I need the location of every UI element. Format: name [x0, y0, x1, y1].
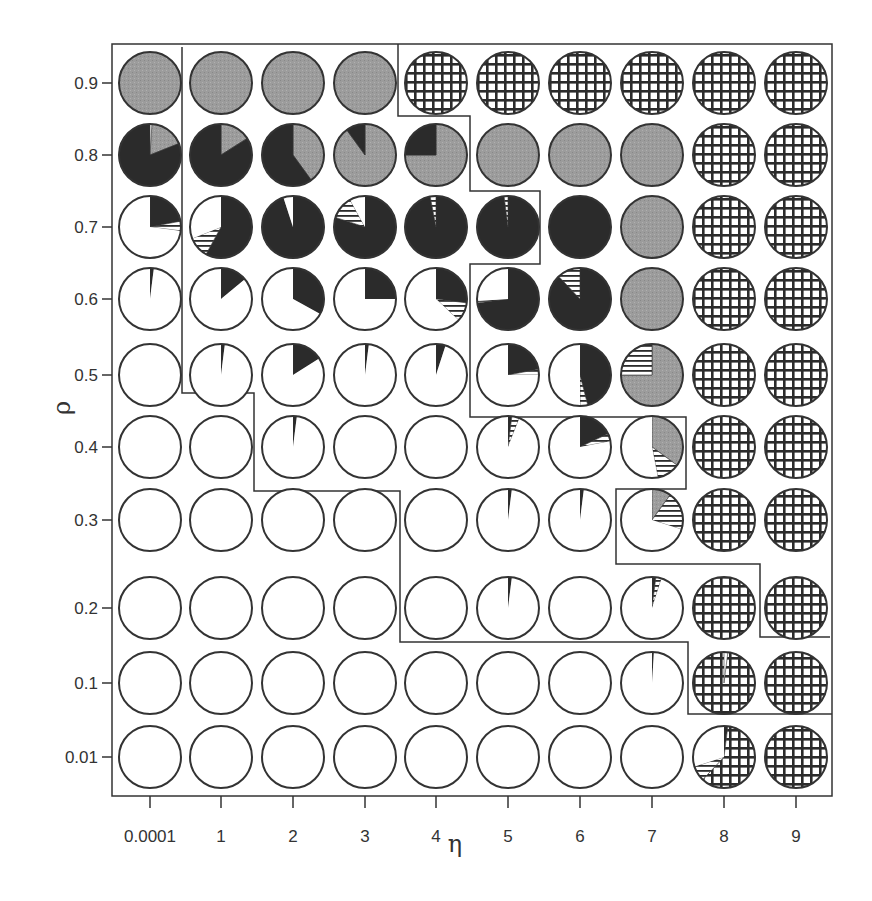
x-tick-label: 5: [503, 827, 512, 846]
pie-marker: [119, 416, 181, 478]
pie-marker: [405, 124, 467, 186]
pie-marker: [621, 489, 683, 551]
x-tick-label: 4: [431, 827, 440, 846]
y-tick-label: 0.1: [74, 674, 98, 693]
pie-marker: [334, 268, 396, 330]
pie-marker: [549, 124, 611, 186]
y-tick-label: 0.4: [74, 438, 98, 457]
pie-marker: [190, 577, 252, 639]
pie-marker: [334, 489, 396, 551]
pie-marker: [549, 344, 611, 406]
pie-marker: [765, 268, 827, 330]
pie-marker: [334, 196, 396, 258]
pie-marker: [693, 196, 755, 258]
pie-markers: [119, 52, 827, 788]
pie-marker: [262, 416, 324, 478]
pie-marker: [621, 124, 683, 186]
y-tick-label: 0.2: [74, 599, 98, 618]
pie-marker: [693, 726, 755, 788]
pie-marker: [477, 726, 539, 788]
pie-marker: [693, 577, 755, 639]
pie-marker: [549, 268, 611, 330]
pie-marker: [765, 196, 827, 258]
pie-marker: [190, 726, 252, 788]
pie-marker: [262, 268, 324, 330]
pie-marker: [190, 52, 252, 114]
pie-marker: [765, 416, 827, 478]
pie-marker: [765, 489, 827, 551]
x-tick-label: 0.0001: [124, 827, 176, 846]
pie-marker: [190, 268, 252, 330]
pie-marker: [765, 652, 827, 714]
pie-marker: [190, 489, 252, 551]
pie-marker: [334, 344, 396, 406]
pie-marker: [334, 577, 396, 639]
pie-marker: [765, 344, 827, 406]
pie-marker: [262, 726, 324, 788]
pie-marker: [334, 726, 396, 788]
x-tick-label: 3: [360, 827, 369, 846]
pie-marker: [190, 124, 252, 186]
pie-marker: [621, 577, 683, 639]
y-tick-label: 0.3: [74, 511, 98, 530]
pie-marker: [334, 52, 396, 114]
pie-marker: [262, 124, 324, 186]
pie-marker: [621, 726, 683, 788]
pie-marker: [405, 726, 467, 788]
y-tick-label: 0.6: [74, 290, 98, 309]
pie-marker: [549, 52, 611, 114]
x-axis: 0.0001123456789: [124, 796, 801, 846]
pie-marker: [262, 344, 324, 406]
pie-marker: [334, 652, 396, 714]
pie-marker: [262, 489, 324, 551]
pie-marker: [405, 652, 467, 714]
pie-marker: [119, 52, 181, 114]
pie-marker: [477, 52, 539, 114]
pie-marker: [549, 652, 611, 714]
pie-marker: [549, 196, 611, 258]
y-tick-label: 0.7: [74, 218, 98, 237]
pie-marker: [621, 344, 683, 406]
pie-grid-chart: 0.90.80.70.60.50.40.30.20.10.01 0.000112…: [0, 0, 872, 901]
pie-marker: [477, 268, 539, 330]
pie-marker: [549, 577, 611, 639]
pie-marker: [549, 416, 611, 478]
pie-marker: [262, 52, 324, 114]
pie-marker: [621, 652, 683, 714]
pie-marker: [405, 52, 467, 114]
pie-marker: [119, 196, 181, 258]
pie-marker: [693, 416, 755, 478]
pie-marker: [119, 577, 181, 639]
pie-marker: [334, 124, 396, 186]
pie-marker: [477, 416, 539, 478]
pie-marker: [119, 124, 181, 186]
pie-marker: [477, 124, 539, 186]
pie-marker: [477, 652, 539, 714]
pie-marker: [765, 124, 827, 186]
y-tick-label: 0.9: [74, 74, 98, 93]
pie-marker: [405, 416, 467, 478]
pie-marker: [765, 52, 827, 114]
pie-marker: [477, 489, 539, 551]
region-high-eta-boundary: [398, 44, 830, 637]
pie-marker: [477, 344, 539, 406]
pie-marker: [693, 489, 755, 551]
pie-marker: [621, 52, 683, 114]
pie-marker: [190, 196, 252, 258]
pie-marker: [765, 726, 827, 788]
pie-marker: [405, 268, 467, 330]
pie-marker: [262, 652, 324, 714]
pie-marker: [190, 652, 252, 714]
pie-marker: [693, 52, 755, 114]
pie-marker: [405, 196, 467, 258]
x-tick-label: 8: [719, 827, 728, 846]
pie-marker: [549, 726, 611, 788]
pie-marker: [190, 416, 252, 478]
pie-marker: [334, 416, 396, 478]
pie-marker: [693, 268, 755, 330]
x-tick-label: 1: [216, 827, 225, 846]
pie-slice-white: [549, 344, 580, 406]
x-tick-label: 9: [791, 827, 800, 846]
pie-marker: [405, 489, 467, 551]
pie-marker: [119, 268, 181, 330]
